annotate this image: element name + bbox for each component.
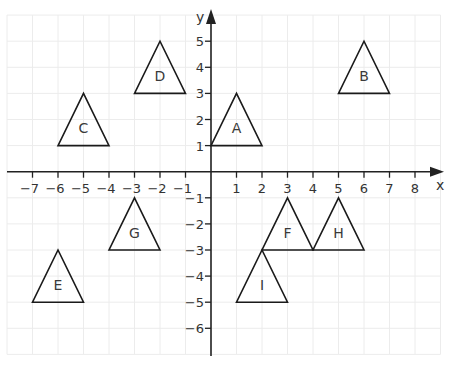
y-tick-label: 5 <box>196 34 204 49</box>
triangle-label: E <box>54 277 63 293</box>
x-tick-label: 3 <box>283 181 291 196</box>
triangle-label: G <box>129 225 140 241</box>
y-tick-label: 3 <box>196 86 204 101</box>
x-tick-label: −2 <box>147 181 166 196</box>
y-tick-label: 1 <box>196 139 204 154</box>
x-tick-label: 1 <box>232 181 240 196</box>
y-tick-label: −6 <box>185 321 204 336</box>
x-tick-label: −4 <box>96 181 115 196</box>
y-tick-label: −5 <box>185 295 204 310</box>
y-tick-label: 2 <box>196 113 204 128</box>
triangle-label: F <box>283 225 291 241</box>
x-tick-label: −3 <box>122 181 141 196</box>
x-tick-label: 5 <box>334 181 342 196</box>
triangle-label: A <box>232 120 242 136</box>
y-tick-label: −1 <box>185 191 204 206</box>
triangle-label: B <box>359 68 369 84</box>
y-tick-label: −2 <box>185 217 204 232</box>
triangle-label: D <box>155 68 166 84</box>
triangle-label: C <box>79 120 89 136</box>
y-tick-label: 4 <box>196 60 204 75</box>
x-tick-label: 4 <box>309 181 317 196</box>
y-axis-arrow-icon <box>206 9 216 24</box>
x-axis-arrow-icon <box>430 167 444 177</box>
x-tick-label: 7 <box>385 181 393 196</box>
triangle-label: I <box>260 277 264 293</box>
x-axis-label: x <box>436 177 444 193</box>
x-tick-label: −7 <box>20 181 39 196</box>
coordinate-plane: x y −7−6−5−4−3−2−112345678−6−5−4−3−2−112… <box>0 0 456 370</box>
y-tick-label: −3 <box>185 243 204 258</box>
triangle-label: H <box>333 225 344 241</box>
y-tick-label: −4 <box>185 269 204 284</box>
x-tick-label: −6 <box>45 181 64 196</box>
x-tick-label: −5 <box>71 181 90 196</box>
x-tick-label: 2 <box>258 181 266 196</box>
y-axis-label: y <box>196 9 204 25</box>
x-tick-label: 8 <box>411 181 419 196</box>
coordinate-plane-diagram: x y −7−6−5−4−3−2−112345678−6−5−4−3−2−112… <box>0 0 456 370</box>
x-tick-label: 6 <box>360 181 368 196</box>
